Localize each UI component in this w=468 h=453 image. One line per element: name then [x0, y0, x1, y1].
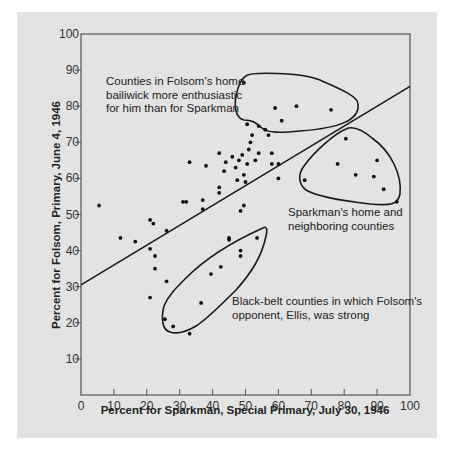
data-point	[242, 173, 246, 177]
y-tick-label: 100	[59, 27, 79, 41]
data-point	[217, 151, 221, 155]
data-point	[181, 200, 185, 204]
data-point	[148, 296, 152, 300]
y-tick-label: 20	[66, 316, 80, 330]
x-tick-label: 100	[400, 399, 420, 413]
data-point	[217, 191, 221, 195]
data-point	[244, 180, 248, 184]
data-point	[239, 254, 243, 258]
data-point	[242, 204, 246, 208]
data-point	[227, 236, 231, 240]
data-point	[201, 207, 205, 211]
annotations: Counties in Folsom's homebailiwick more …	[106, 75, 422, 321]
x-axis-title: Percent for Sparkman, Special Primary, J…	[101, 404, 390, 416]
data-point	[372, 175, 376, 179]
y-tick-label: 50	[66, 208, 80, 222]
y-tick-label: 40	[66, 244, 80, 258]
data-point	[395, 200, 399, 204]
annotation-folsom-home: bailiwick more enthusiastic	[106, 89, 242, 101]
data-point	[375, 158, 379, 162]
data-point	[219, 265, 223, 269]
annotation-folsom-home: for him than for Sparkman	[106, 102, 239, 114]
data-point	[255, 236, 259, 240]
annotation-folsom-home: Counties in Folsom's home	[106, 75, 244, 87]
data-point	[273, 106, 277, 110]
data-point	[336, 162, 340, 166]
annotation-sparkman-home: Sparkman's home and	[288, 206, 403, 218]
scatter-chart: 0102030405060708090100 10203040506070809…	[0, 0, 468, 453]
y-tick-label: 80	[66, 99, 80, 113]
data-point	[148, 247, 152, 251]
regression-line	[81, 86, 410, 285]
data-point	[201, 198, 205, 202]
annotation-sparkman-home: neighboring counties	[288, 220, 394, 232]
y-tick-label: 30	[66, 280, 80, 294]
data-point	[280, 119, 284, 123]
data-point	[199, 301, 203, 305]
data-point	[263, 128, 267, 132]
y-axis-ticks: 102030405060708090100	[59, 27, 81, 366]
data-point	[222, 169, 226, 173]
data-point	[247, 148, 251, 152]
data-point	[188, 332, 192, 336]
annotation-black-belt: Black-belt counties in which Folsom's	[232, 295, 422, 307]
data-point	[267, 133, 271, 137]
y-tick-label: 60	[66, 171, 80, 185]
data-point	[344, 137, 348, 141]
data-point	[224, 160, 228, 164]
data-point	[153, 267, 157, 271]
folsom-home-outline	[235, 73, 358, 132]
data-point	[250, 133, 254, 137]
data-point	[209, 272, 213, 276]
data-point	[329, 108, 333, 112]
data-point	[230, 155, 234, 159]
data-point	[277, 162, 281, 166]
data-point	[235, 178, 239, 182]
sparkman-home-outline	[300, 128, 401, 205]
data-point	[151, 222, 155, 226]
data-point	[239, 249, 243, 253]
data-point	[163, 317, 167, 321]
data-point	[119, 236, 123, 240]
data-point	[184, 200, 188, 204]
data-point	[303, 178, 307, 182]
data-point	[237, 158, 241, 162]
data-point	[234, 166, 238, 170]
data-point	[204, 164, 208, 168]
data-point	[217, 186, 221, 190]
data-point	[165, 229, 169, 233]
data-point	[257, 124, 261, 128]
data-point	[354, 173, 358, 177]
data-point	[188, 160, 192, 164]
data-point	[153, 254, 157, 258]
data-point	[148, 218, 152, 222]
data-point	[270, 151, 274, 155]
data-point	[245, 122, 249, 126]
data-point	[382, 187, 386, 191]
data-point	[133, 240, 137, 244]
y-tick-label: 90	[66, 63, 80, 77]
annotation-black-belt: opponent, Ellis, was strong	[232, 309, 369, 321]
data-point	[239, 209, 243, 213]
data-point	[257, 151, 261, 155]
data-point	[295, 104, 299, 108]
data-point	[171, 325, 175, 329]
data-point	[245, 162, 249, 166]
data-point	[165, 279, 169, 283]
data-point	[270, 162, 274, 166]
data-point	[97, 204, 101, 208]
x-tick-label: 0	[78, 399, 85, 413]
y-axis-title: Percent for Folsom, Primary, June 4, 194…	[50, 101, 62, 329]
data-point	[277, 177, 281, 181]
data-point	[253, 158, 257, 162]
y-tick-label: 10	[66, 352, 80, 366]
data-point	[249, 140, 253, 144]
y-tick-label: 70	[66, 135, 80, 149]
data-point	[240, 153, 244, 157]
